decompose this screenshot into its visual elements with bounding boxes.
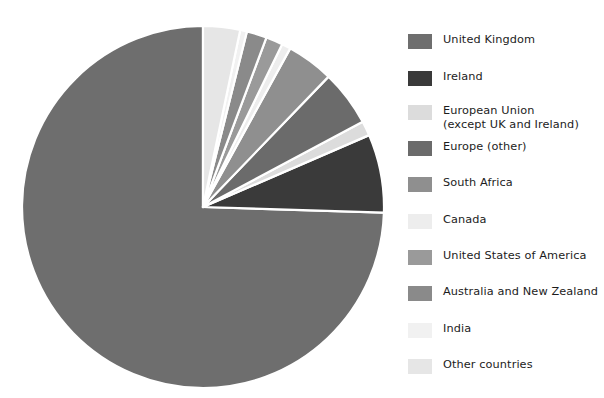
- legend-item[interactable]: United States of America: [408, 249, 587, 265]
- legend-item[interactable]: India: [408, 322, 471, 338]
- pie-svg: [0, 0, 396, 398]
- legend-item[interactable]: Ireland: [408, 70, 483, 86]
- legend-item[interactable]: Europe (other): [408, 140, 527, 156]
- legend-item[interactable]: United Kingdom: [408, 33, 535, 49]
- legend-swatch-australia-and-new-zealand: [408, 286, 432, 301]
- legend-item-label: Australia and New Zealand: [443, 285, 598, 299]
- legend-swatch-united-kingdom: [408, 34, 432, 49]
- legend-swatch-united-states-of-america: [408, 250, 432, 265]
- legend-item[interactable]: Other countries: [408, 358, 533, 374]
- legend-swatch-other-countries: [408, 359, 432, 374]
- pie-chart-figure: United KingdomIrelandEuropean Union (exc…: [0, 0, 604, 398]
- legend-swatch-canada: [408, 214, 432, 229]
- legend-swatch-ireland: [408, 71, 432, 86]
- legend-item-label: India: [443, 322, 471, 336]
- legend-item-label: Europe (other): [443, 140, 527, 154]
- legend-item-label: Other countries: [443, 358, 533, 372]
- chart-legend: United KingdomIrelandEuropean Union (exc…: [408, 16, 604, 386]
- legend-item-label: Canada: [443, 213, 487, 227]
- legend-item-label: United States of America: [443, 249, 587, 263]
- legend-item[interactable]: Canada: [408, 213, 487, 229]
- legend-item-label: South Africa: [443, 176, 513, 190]
- legend-item-label: United Kingdom: [443, 33, 535, 47]
- pie-plot-area: [0, 0, 396, 398]
- legend-swatch-south-africa: [408, 177, 432, 192]
- legend-item-label: Ireland: [443, 70, 483, 84]
- legend-swatch-india: [408, 323, 432, 338]
- legend-item-label: European Union (except UK and Ireland): [443, 104, 579, 131]
- legend-item[interactable]: European Union (except UK and Ireland): [408, 104, 579, 131]
- legend-item[interactable]: Australia and New Zealand: [408, 285, 598, 301]
- legend-swatch-europe-other: [408, 141, 432, 156]
- pie-slices-group: [22, 26, 384, 388]
- legend-swatch-european-union: [408, 105, 432, 120]
- legend-item[interactable]: South Africa: [408, 176, 513, 192]
